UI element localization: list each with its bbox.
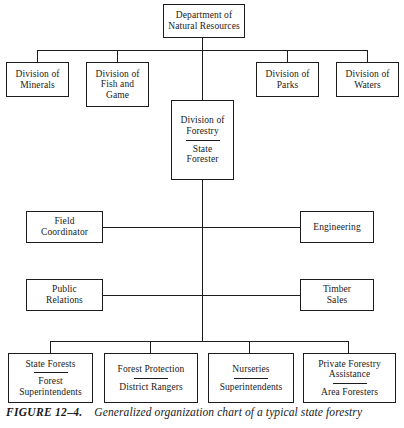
connector-drop-nurseries <box>249 341 250 353</box>
connector-drop-waters <box>367 50 368 62</box>
node-role-segment: District Rangers <box>119 382 183 393</box>
node-line: Fish and <box>101 79 134 90</box>
node-division-of-parks: Division of Parks <box>256 62 319 97</box>
node-line: Division of <box>180 115 224 126</box>
node-division-of-minerals: Division of Minerals <box>6 62 69 97</box>
node-line: Forestry <box>186 126 218 137</box>
node-divider-rule <box>34 372 68 373</box>
connector-drop-fishgame <box>117 50 118 62</box>
node-line: Game <box>106 90 129 101</box>
node-line: Waters <box>354 80 381 91</box>
node-line: Relations <box>46 295 83 306</box>
connector-drop-state-forests <box>50 341 51 353</box>
node-line: District Rangers <box>119 382 183 393</box>
connector-drop-private-forestry <box>348 341 349 353</box>
node-line: Superintendents <box>220 382 283 393</box>
node-role-segment: Superintendents <box>220 382 283 393</box>
node-divider-rule <box>186 140 220 141</box>
node-title-segment: Division of Forestry <box>180 115 224 136</box>
connector-drop-parks <box>287 50 288 62</box>
node-divider-rule <box>134 378 168 379</box>
node-line: State <box>193 144 213 155</box>
node-line: Forester <box>187 154 219 165</box>
node-line: Public <box>52 284 77 295</box>
connector-staff-row-1 <box>103 227 300 228</box>
figure-number: FIGURE 12–4. <box>6 406 82 418</box>
node-line: Coordinator <box>41 227 88 238</box>
node-line: Superintendents <box>19 387 82 398</box>
connector-staff-row-2 <box>103 295 300 296</box>
node-division-of-waters: Division of Waters <box>336 62 399 97</box>
node-field-coordinator: Field Coordinator <box>26 211 103 243</box>
node-private-forestry-assistance: Private Forestry Assistance Area Foreste… <box>303 353 396 403</box>
node-nurseries: Nurseries Superintendents <box>208 353 294 403</box>
node-public-relations: Public Relations <box>26 279 103 311</box>
node-title-segment: Forest Protection <box>118 364 185 375</box>
node-line: State Forests <box>25 359 75 370</box>
node-line: Private Forestry <box>318 359 381 370</box>
node-role-segment: Forest Superintendents <box>19 376 82 397</box>
node-division-of-forestry: Division of Forestry State Forester <box>171 100 234 180</box>
node-department-of-natural-resources: Department of Natural Resources <box>163 4 245 38</box>
node-line: Division of <box>345 69 389 80</box>
node-divider-rule <box>333 383 367 384</box>
node-line: Engineering <box>313 222 361 233</box>
figure-caption-text: Generalized organization chart of a typi… <box>94 406 362 418</box>
node-title-segment: Private Forestry Assistance <box>318 359 381 380</box>
node-line: Department of <box>176 10 232 21</box>
node-line: Natural Resources <box>168 21 240 32</box>
node-line: Sales <box>327 295 348 306</box>
node-role-segment: State Forester <box>187 144 219 165</box>
node-line: Timber <box>323 284 351 295</box>
connector-drop-forestry <box>202 50 203 100</box>
node-role-segment: Area Foresters <box>321 387 378 398</box>
node-divider-rule <box>234 378 268 379</box>
node-title-segment: Nurseries <box>232 364 269 375</box>
node-line: Minerals <box>20 80 55 91</box>
organization-chart-figure: Department of Natural Resources Division… <box>0 0 404 428</box>
node-line: Area Foresters <box>321 387 378 398</box>
node-line: Field <box>54 216 74 227</box>
node-forest-protection: Forest Protection District Rangers <box>104 353 198 403</box>
connector-branch-bus <box>50 341 348 342</box>
connector-main-trunk <box>202 180 203 341</box>
connector-root-stem <box>202 38 203 50</box>
node-line: Division of <box>95 69 139 80</box>
node-line: Nurseries <box>232 364 269 375</box>
node-line: Forest <box>38 376 62 387</box>
connector-drop-forest-protection <box>150 341 151 353</box>
node-division-of-fish-and-game: Division of Fish and Game <box>86 62 149 107</box>
node-line: Division of <box>15 69 59 80</box>
node-title-segment: State Forests <box>25 359 75 370</box>
node-engineering: Engineering <box>300 211 374 243</box>
figure-caption: FIGURE 12–4. Generalized organization ch… <box>6 406 400 420</box>
connector-drop-minerals <box>37 50 38 62</box>
node-line: Forest Protection <box>118 364 185 375</box>
node-line: Parks <box>277 80 299 91</box>
node-timber-sales: Timber Sales <box>300 279 374 311</box>
node-line: Division of <box>265 69 309 80</box>
node-line: Assistance <box>329 369 371 380</box>
node-state-forests: State Forests Forest Superintendents <box>8 353 93 403</box>
